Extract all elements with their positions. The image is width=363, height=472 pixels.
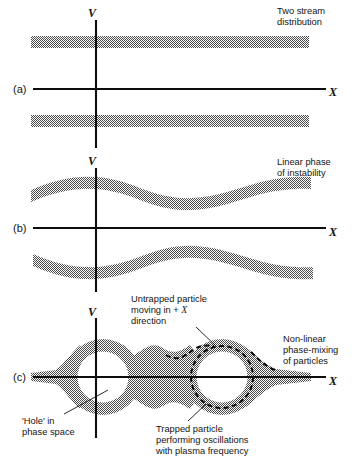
untrapped-label-italic-x: X: [180, 305, 187, 315]
panel-c: Non-linear phase-mixing of particles V: [13, 294, 338, 456]
panel-c-label: (c): [13, 371, 26, 383]
figure-canvas: Two stream distribution V X (a) Linear p…: [0, 0, 363, 472]
panel-b-label: (b): [13, 222, 26, 234]
untrapped-label-line-1: Untrapped particle: [131, 294, 207, 304]
untrapped-label-line-2: moving in + X: [131, 305, 187, 315]
hole-label-line-2: phase space: [22, 427, 75, 437]
panel-b: Linear phase of instability V X (b): [13, 154, 338, 292]
untrapped-label-line-3: direction: [131, 316, 166, 326]
hole-label-line-1: 'Hole' in: [22, 416, 55, 426]
panel-b-lower-beam: [33, 246, 313, 279]
panel-b-v-axis-label: V: [88, 154, 97, 168]
phase-space-figure: Two stream distribution V X (a) Linear p…: [0, 0, 363, 472]
trapped-label-line-2: performing oscillations: [156, 435, 249, 445]
panel-c-caption-line-1: Non-linear: [283, 334, 326, 344]
panel-a-v-axis-label: V: [88, 6, 97, 20]
trapped-label-line-1: Trapped particle: [156, 424, 223, 434]
panel-c-caption-line-3: of particles: [283, 356, 328, 366]
panel-a-lower-beam: [31, 115, 309, 127]
panel-a-caption-line-2: distribution: [277, 17, 322, 27]
panel-b-caption-line-1: Linear phase: [277, 157, 331, 167]
panel-a-caption-line-1: Two stream: [277, 6, 325, 16]
panel-a: Two stream distribution V X (a): [13, 6, 338, 148]
panel-c-caption-line-2: phase-mixing: [283, 345, 338, 355]
panel-c-v-axis-label: V: [88, 305, 97, 319]
panel-a-x-axis-label: X: [328, 85, 338, 99]
trapped-label-line-3: with plasma frequency: [155, 446, 249, 456]
panel-c-x-axis-label: X: [328, 374, 338, 388]
annotation-untrapped-particle: Untrapped particle moving in + X directi…: [131, 294, 217, 347]
panel-a-label: (a): [13, 83, 26, 95]
panel-b-caption-line-2: of instability: [277, 168, 326, 178]
panel-a-upper-beam: [31, 36, 309, 48]
panel-b-x-axis-label: X: [328, 225, 338, 239]
panel-b-upper-beam: [31, 177, 311, 210]
